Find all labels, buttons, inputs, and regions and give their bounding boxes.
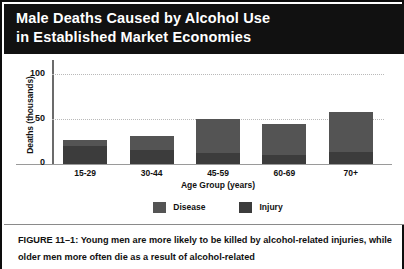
bar-segment-disease — [130, 136, 174, 150]
plot-area: 100 50 0 15-2930-4445-5960-6970+ — [52, 76, 384, 164]
x-tick-label-70+: 70+ — [316, 168, 386, 178]
chart-panel: Deaths (thousands) 100 50 0 15-2930-4445… — [4, 54, 404, 224]
bar-segment-injury — [196, 153, 240, 164]
bar-15-29 — [63, 140, 107, 164]
bar-segment-injury — [262, 155, 306, 164]
title-banner: Male Deaths Caused by Alcohol Use in Est… — [4, 4, 404, 54]
figure-caption: FIGURE 11–1: Young men are more likely t… — [18, 232, 392, 266]
bar-segment-disease — [196, 119, 240, 153]
legend-item-disease: Disease — [153, 202, 205, 213]
bar-segment-injury — [329, 152, 373, 164]
x-tick-label-60-69: 60-69 — [249, 168, 319, 178]
bar-45-59 — [196, 119, 240, 164]
gridline-100 — [52, 74, 384, 75]
figure-container: Male Deaths Caused by Alcohol Use in Est… — [0, 0, 404, 269]
bar-70+ — [329, 112, 373, 164]
bar-30-44 — [130, 136, 174, 164]
bar-segment-injury — [63, 146, 107, 164]
bar-segment-disease — [262, 124, 306, 155]
bar-segment-injury — [130, 150, 174, 164]
figure-title: Male Deaths Caused by Alcohol Use in Est… — [16, 9, 396, 47]
bar-segment-disease — [329, 112, 373, 152]
x-tick-label-15-29: 15-29 — [50, 168, 120, 178]
bar-60-69 — [262, 124, 306, 164]
x-axis-line — [16, 164, 392, 165]
x-tick-label-45-59: 45-59 — [183, 168, 253, 178]
legend-label-injury: Injury — [259, 202, 282, 212]
legend-item-injury: Injury — [239, 202, 282, 213]
legend-swatch-injury — [239, 202, 252, 213]
y-tick-label-100: 100 — [5, 68, 45, 78]
chart-legend: DiseaseInjury — [52, 200, 384, 214]
y-tick-label-50: 50 — [5, 113, 45, 123]
x-axis-title: Age Group (years) — [52, 180, 384, 190]
bar-group — [52, 76, 384, 164]
x-tick-label-30-44: 30-44 — [117, 168, 187, 178]
y-tick-label-0: 0 — [5, 157, 45, 167]
legend-label-disease: Disease — [173, 202, 205, 212]
legend-swatch-disease — [153, 202, 166, 213]
caption-divider — [4, 224, 404, 225]
